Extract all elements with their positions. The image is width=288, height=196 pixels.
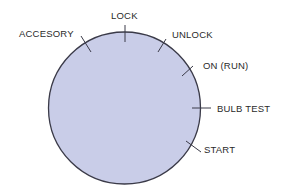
label-lock: LOCK <box>111 10 138 21</box>
label-on-run: ON (RUN) <box>203 60 248 71</box>
label-unlock: UNLOCK <box>172 29 213 40</box>
label-accesory: ACCESORY <box>19 28 74 39</box>
label-start: START <box>204 144 235 155</box>
label-bulb-test: BULB TEST <box>217 103 270 114</box>
dial-circle <box>49 32 201 184</box>
ignition-switch-diagram: ACCESORY LOCK UNLOCK ON (RUN) BULB TEST … <box>0 0 288 196</box>
